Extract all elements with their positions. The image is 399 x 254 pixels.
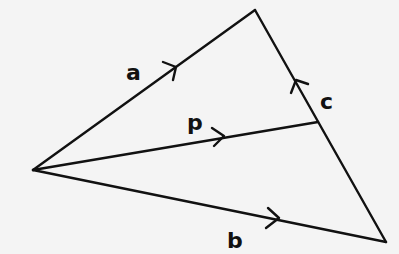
- label-a: a: [126, 60, 141, 85]
- label-c: c: [320, 89, 333, 114]
- label-b: b: [227, 228, 243, 253]
- label-p: p: [187, 110, 203, 135]
- vector-b-line: [33, 170, 386, 242]
- diagram-svg: a p c b: [0, 0, 399, 254]
- vector-a-line: [33, 10, 255, 170]
- vector-triangle-diagram: a p c b: [0, 0, 399, 254]
- vector-p-line: [33, 122, 318, 170]
- vector-c-line: [255, 10, 386, 242]
- arrow-p-icon: [212, 128, 224, 146]
